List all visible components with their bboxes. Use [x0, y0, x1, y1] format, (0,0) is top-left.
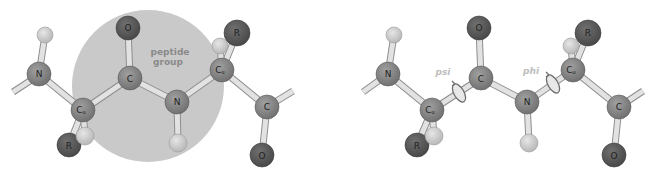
atom-label: C	[264, 102, 270, 112]
hydrogen-atom	[212, 38, 228, 54]
atom-label: R	[414, 141, 420, 151]
atom-label: C	[478, 74, 484, 84]
atom-label: O	[124, 23, 131, 33]
hydrogen-atom	[169, 134, 187, 152]
atom-label: N	[385, 69, 392, 79]
right-panel: N R Cα O C N Cα R C O psi phi	[363, 16, 643, 167]
hydrogen-atom	[520, 134, 538, 152]
atom-label: O	[475, 23, 482, 33]
atom-label: N	[524, 97, 531, 107]
psi-angle-label: psi	[435, 67, 452, 77]
atom-label: N	[174, 97, 181, 107]
bonds	[363, 28, 643, 155]
atom-label: O	[610, 151, 617, 161]
left-panel: N R Cα O C N Cα R C O peptide group	[13, 10, 293, 167]
atom-label: C	[616, 102, 622, 112]
peptide-group-label: peptide	[151, 47, 190, 57]
hydrogen-atom	[563, 38, 579, 54]
peptide-diagram: N R Cα O C N Cα R C O peptide group	[0, 0, 660, 177]
atom-label: O	[258, 151, 265, 161]
atom-label: C	[127, 74, 133, 84]
atom-label: R	[66, 141, 72, 151]
phi-angle-label: phi	[522, 66, 540, 76]
atom-label: N	[36, 69, 43, 79]
hydrogen-atom	[76, 127, 94, 145]
atom-label: R	[234, 28, 240, 38]
atom-label: R	[585, 28, 591, 38]
peptide-group-label: group	[153, 57, 183, 67]
hydrogen-atom	[386, 27, 402, 43]
hydrogen-atom	[425, 127, 443, 145]
hydrogen-atom	[37, 27, 53, 43]
